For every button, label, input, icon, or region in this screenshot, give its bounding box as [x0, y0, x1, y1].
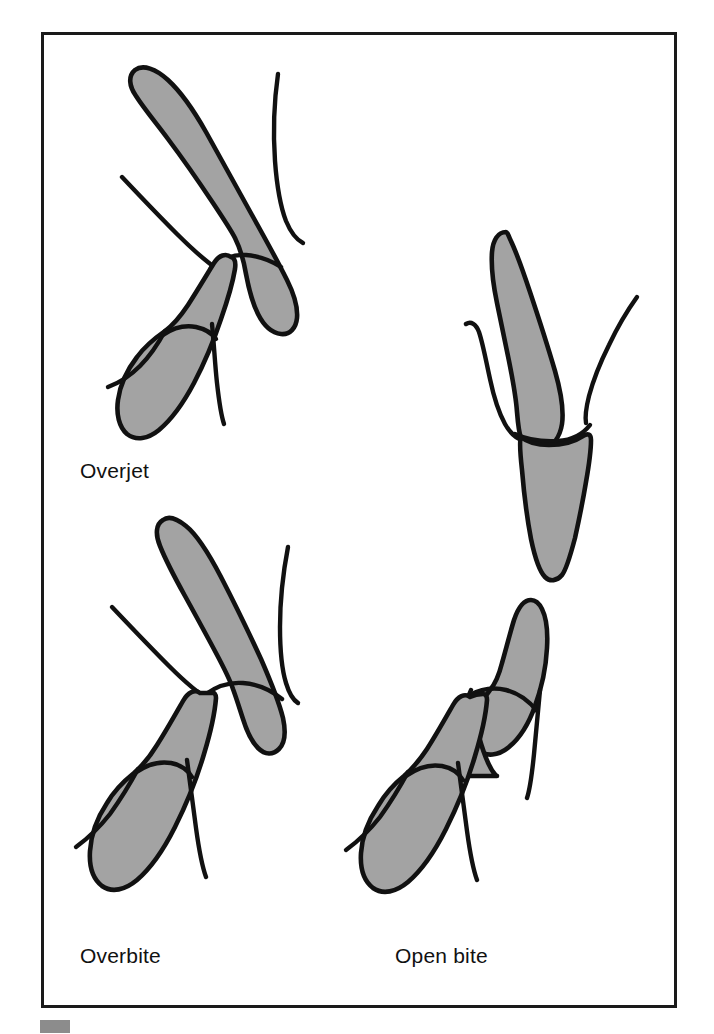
corner-registration-mark [40, 1020, 70, 1033]
dental-occlusion-figure: Overjet [0, 0, 714, 1034]
label-overbite: Overbite [80, 944, 161, 967]
label-open-bite: Open bite [395, 944, 488, 967]
label-overjet: Overjet [80, 459, 149, 482]
figure-canvas: Overjet [0, 0, 714, 1034]
